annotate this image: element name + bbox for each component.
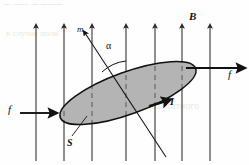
label-angle-alpha: α xyxy=(106,41,111,51)
angle-arc xyxy=(102,61,126,72)
label-force-left: f xyxy=(8,104,11,115)
physics-diagram xyxy=(0,0,249,165)
label-area: S xyxy=(67,138,73,148)
label-magnetic-field: B xyxy=(189,11,196,22)
figure-container: — —— — ——— в случае поля магнитного xyxy=(0,0,249,165)
label-force-right: f xyxy=(228,69,231,80)
label-magnetic-moment: m xyxy=(77,25,84,34)
label-current: I xyxy=(170,97,174,107)
